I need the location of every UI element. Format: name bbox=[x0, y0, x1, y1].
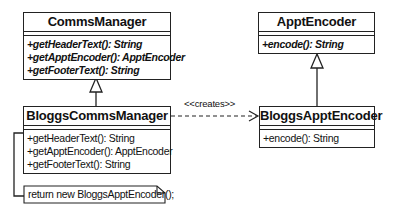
operation: +getApptEncoder(): ApptEncoder bbox=[27, 145, 170, 158]
class-bloggs-comms-manager: BloggsCommsManager +getHeaderText(): Str… bbox=[23, 106, 171, 174]
operation: +getFooterText(): String bbox=[27, 158, 170, 171]
operation: +getHeaderText(): String bbox=[27, 132, 170, 145]
operation: +getApptEncoder(): ApptEncoder bbox=[27, 51, 170, 64]
note-text: return new BloggsApptEncoder(); bbox=[28, 188, 174, 200]
class-comms-manager: CommsManager +getHeaderText(): String +g… bbox=[23, 12, 171, 80]
class-appt-encoder: ApptEncoder +encode(): String bbox=[258, 12, 375, 54]
generalization-arrow-comms bbox=[90, 78, 102, 106]
class-name: BloggsCommsManager bbox=[24, 107, 170, 126]
class-name: CommsManager bbox=[24, 13, 170, 32]
generalization-arrow-encoder bbox=[311, 54, 323, 106]
operation: +getHeaderText(): String bbox=[27, 38, 170, 51]
class-name: BloggsApptEncoder bbox=[260, 107, 374, 126]
class-bloggs-appt-encoder: BloggsApptEncoder +encode(): String bbox=[259, 106, 375, 148]
operations-compartment: +getHeaderText(): String +getApptEncoder… bbox=[24, 36, 170, 79]
creates-dependency-arrow bbox=[171, 111, 258, 121]
operations-compartment: +encode(): String bbox=[259, 36, 374, 53]
operation: +encode(): String bbox=[263, 132, 374, 145]
creates-stereotype-label: <<creates>> bbox=[184, 98, 235, 109]
operation: +getFooterText(): String bbox=[27, 64, 170, 77]
operation: +encode(): String bbox=[262, 38, 374, 51]
operations-compartment: +encode(): String bbox=[260, 130, 374, 147]
operations-compartment: +getHeaderText(): String +getApptEncoder… bbox=[24, 130, 170, 173]
class-name: ApptEncoder bbox=[259, 13, 374, 32]
